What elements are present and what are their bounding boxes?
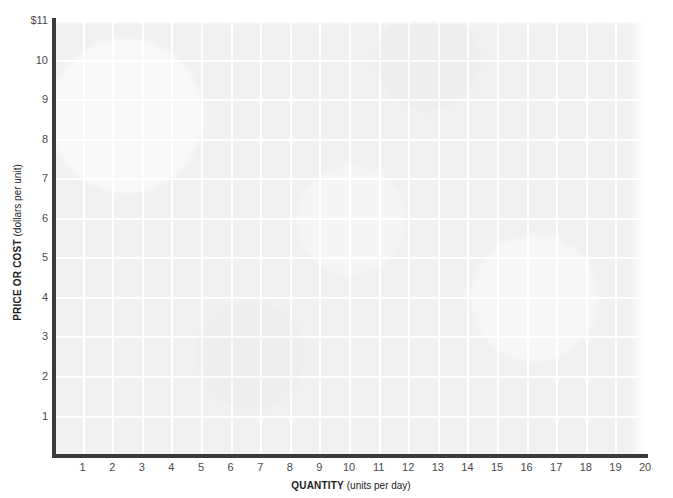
gridline-vertical [497,20,499,455]
y-axis-title: PRICE OR COST (dollars per unit) [12,163,23,323]
x-tick-label: 1 [68,460,98,474]
x-tick-label: 6 [216,460,246,474]
y-tick-label: 1 [2,410,48,422]
x-tick-label: 7 [245,460,275,474]
x-tick-label: 16 [512,460,542,474]
gridline-vertical [231,20,233,455]
plot-area [55,20,647,455]
x-tick-label: 20 [630,460,660,474]
x-tick-label: 8 [275,460,305,474]
gridline-horizontal [55,336,647,338]
y-axis-title-light: (dollars per unit) [12,164,23,236]
x-tick-label: 9 [304,460,334,474]
x-tick-label: 3 [127,460,157,474]
gridline-vertical [290,20,292,455]
gridline-vertical [467,20,469,455]
gridline-vertical [142,20,144,455]
gridline-horizontal [55,416,647,418]
y-axis-tick-labels: $11 10 9 8 7 6 5 4 3 2 1 [0,0,48,498]
chart-figure: $11 10 9 8 7 6 5 4 3 2 1 1 2 3 4 5 6 7 8… [0,0,673,498]
gridline-horizontal [55,178,647,180]
x-tick-label: 17 [541,460,571,474]
x-tick-label: 12 [393,460,423,474]
y-axis-title-strong: PRICE OR COST [12,239,23,321]
y-tick-label: 3 [2,330,48,342]
x-tick-label: 13 [423,460,453,474]
x-tick-label: 10 [334,460,364,474]
gridline-vertical [83,20,85,455]
x-axis-line [52,454,648,458]
x-tick-label: 14 [452,460,482,474]
gridline-horizontal [55,60,647,62]
x-tick-label: 4 [156,460,186,474]
y-tick-label: 9 [2,93,48,105]
y-tick-label: 8 [2,133,48,145]
x-tick-label: 5 [186,460,216,474]
x-axis-title-light: (units per day) [347,480,411,491]
y-tick-label: 6 [2,212,48,224]
gridline-vertical [201,20,203,455]
gridline-vertical [260,20,262,455]
y-tick-label: 2 [2,370,48,382]
x-axis-tick-labels: 1 2 3 4 5 6 7 8 9 10 11 12 13 14 15 16 1… [0,460,673,476]
gridline-vertical [319,20,321,455]
gridline-horizontal [55,257,647,259]
y-tick-label: 5 [2,251,48,263]
gridline-horizontal [55,99,647,101]
y-tick-label: 10 [2,54,48,66]
gridline-vertical [586,20,588,455]
gridline-vertical [408,20,410,455]
gridlines [55,20,647,455]
gridline-vertical [438,20,440,455]
gridline-vertical [645,20,647,455]
x-axis-title-strong: QUANTITY [291,480,344,491]
x-tick-label: 19 [600,460,630,474]
x-tick-label: 15 [482,460,512,474]
x-axis-title: QUANTITY (units per day) [55,480,647,491]
gridline-vertical [527,20,529,455]
x-tick-label: 2 [97,460,127,474]
gridline-vertical [615,20,617,455]
cropped-header-text [92,0,612,4]
y-tick-label: 4 [2,291,48,303]
gridline-horizontal [55,139,647,141]
gridline-vertical [349,20,351,455]
gridline-horizontal [55,376,647,378]
x-tick-label: 11 [364,460,394,474]
gridline-vertical [112,20,114,455]
gridline-vertical [556,20,558,455]
gridline-horizontal [55,297,647,299]
y-tick-label: 7 [2,172,48,184]
gridline-vertical [171,20,173,455]
gridline-vertical [379,20,381,455]
gridline-horizontal [55,218,647,220]
gridline-horizontal [55,20,647,22]
y-axis-line [52,18,56,458]
y-tick-label: $11 [2,14,48,26]
x-tick-label: 18 [571,460,601,474]
